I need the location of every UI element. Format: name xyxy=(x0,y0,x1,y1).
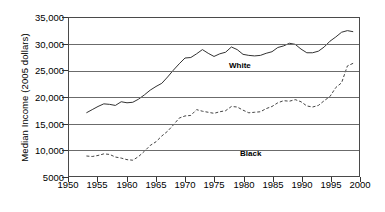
plot-area: White Black xyxy=(68,17,360,177)
gridline-15000 xyxy=(69,124,359,125)
y-tick-label-25000: 25,000 xyxy=(12,66,64,76)
gridline-30000 xyxy=(69,44,359,45)
series-label-white: White xyxy=(229,61,251,70)
x-tick-label-2000: 2000 xyxy=(340,180,380,190)
gridline-20000 xyxy=(69,97,359,98)
gridline-10000 xyxy=(69,150,359,151)
y-tick-label-20000: 20,000 xyxy=(12,93,64,103)
y-tick-label-15000: 15,000 xyxy=(12,120,64,130)
y-tick-label-30000: 30,000 xyxy=(12,40,64,50)
series-line-black xyxy=(86,63,353,160)
y-tick-label-10000: 10,000 xyxy=(12,146,64,156)
y-tick-label-35000: 35,000 xyxy=(12,13,64,23)
chart-figure: Median Income (2005 dollars) 35,000 30,0… xyxy=(0,0,385,212)
series-label-black: Black xyxy=(240,149,261,158)
gridline-25000 xyxy=(69,71,359,72)
